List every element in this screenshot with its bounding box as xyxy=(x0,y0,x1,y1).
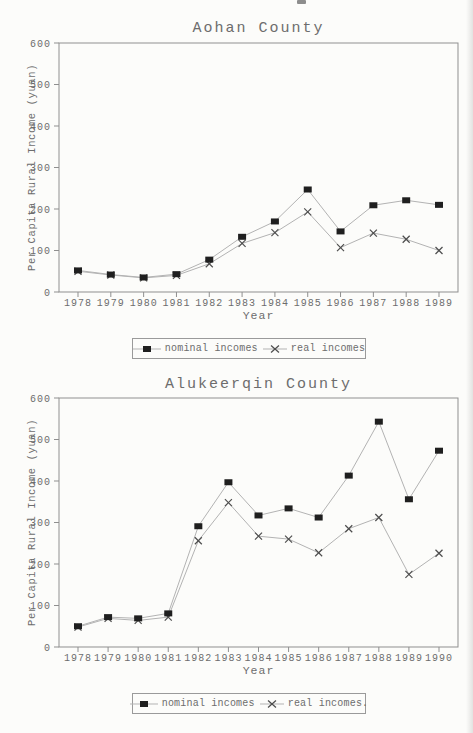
nominal-marker xyxy=(205,257,213,263)
legend-label-nominal: nominal incomes xyxy=(162,698,255,709)
legend-box: nominal incomes real incomes. xyxy=(132,693,366,714)
square-marker-icon xyxy=(130,699,158,709)
x-tick-label: 1989 xyxy=(395,653,423,664)
y-tick-label: 200 xyxy=(30,205,51,216)
x-tick-label: 1978 xyxy=(64,653,92,664)
nominal-marker xyxy=(74,267,82,273)
legend-label-nominal: nominal incomes xyxy=(165,343,258,354)
x-tick-label: 1983 xyxy=(228,298,256,309)
y-tick-label: 200 xyxy=(30,560,51,571)
legend-item-real: real incomes. xyxy=(260,698,369,709)
x-tick-label: 1982 xyxy=(184,653,212,664)
legend-label-real: real incomes xyxy=(291,343,365,354)
nominal-marker xyxy=(107,272,115,278)
nominal-marker xyxy=(402,197,410,203)
nominal-marker xyxy=(224,479,232,485)
y-tick-label: 300 xyxy=(30,518,51,529)
nominal-marker xyxy=(285,505,293,511)
y-tick-label: 0 xyxy=(44,643,51,654)
x-tick-label: 1981 xyxy=(162,298,190,309)
alukeerqin-plot-area: 0100200300400500600197819791980198119821… xyxy=(0,365,473,733)
x-tick-label: 1980 xyxy=(130,298,158,309)
y-tick-label: 400 xyxy=(30,122,51,133)
x-marker-icon xyxy=(260,699,284,709)
nominal-marker xyxy=(315,515,323,521)
x-tick-label: 1984 xyxy=(244,653,272,664)
x-tick-label: 1980 xyxy=(124,653,152,664)
nominal-marker xyxy=(345,473,353,479)
figure-page: Aohan County Per Capita Rural Income (yu… xyxy=(0,0,473,733)
plot-frame xyxy=(59,43,458,292)
plot-0: 0100200300400500600197819791980198119821… xyxy=(30,39,458,310)
legend-label-real: real incomes. xyxy=(288,698,369,709)
x-tick-label: 1978 xyxy=(64,298,92,309)
nominal-marker xyxy=(238,234,246,240)
x-tick-label: 1983 xyxy=(214,653,242,664)
x-tick-label: 1987 xyxy=(359,298,387,309)
x-tick-label: 1984 xyxy=(261,298,289,309)
y-tick-label: 0 xyxy=(44,288,51,299)
nominal-marker xyxy=(304,186,312,192)
x-axis-label: Year xyxy=(59,309,458,322)
x-tick-label: 1979 xyxy=(97,298,125,309)
x-tick-label: 1986 xyxy=(305,653,333,664)
x-tick-label: 1987 xyxy=(335,653,363,664)
legend-item-nominal: nominal incomes xyxy=(130,698,255,709)
nominal-marker xyxy=(337,228,345,234)
nominal-marker xyxy=(172,271,180,277)
plot-1: 0100200300400500600197819791980198119821… xyxy=(30,394,458,665)
nominal-marker xyxy=(435,448,443,454)
x-marker-icon xyxy=(263,344,287,354)
y-tick-label: 600 xyxy=(30,39,51,50)
nominal-marker xyxy=(134,615,142,621)
nominal-marker xyxy=(375,419,383,425)
nominal-marker xyxy=(405,496,413,502)
y-tick-label: 500 xyxy=(30,80,51,91)
nominal-incomes-line xyxy=(78,422,439,627)
nominal-marker xyxy=(74,623,82,629)
x-tick-label: 1989 xyxy=(425,298,453,309)
nominal-marker xyxy=(140,274,148,280)
x-axis-label: Year xyxy=(59,664,458,677)
y-tick-label: 600 xyxy=(30,394,51,405)
nominal-marker xyxy=(369,202,377,208)
x-tick-label: 1981 xyxy=(154,653,182,664)
y-tick-label: 400 xyxy=(30,477,51,488)
nominal-marker xyxy=(194,523,202,529)
real-incomes-line xyxy=(78,503,439,627)
y-tick-label: 300 xyxy=(30,163,51,174)
square-marker-icon xyxy=(133,344,161,354)
x-tick-label: 1985 xyxy=(294,298,322,309)
y-tick-label: 100 xyxy=(30,246,51,257)
nominal-marker xyxy=(164,610,172,616)
nominal-marker xyxy=(104,614,112,620)
legend-box: nominal incomes real incomes xyxy=(132,338,366,359)
x-tick-label: 1979 xyxy=(94,653,122,664)
nominal-marker xyxy=(271,218,279,224)
y-tick-label: 500 xyxy=(30,435,51,446)
x-tick-label: 1988 xyxy=(392,298,420,309)
real-incomes-line xyxy=(78,212,439,278)
x-tick-label: 1988 xyxy=(365,653,393,664)
y-tick-label: 100 xyxy=(30,601,51,612)
nominal-marker xyxy=(435,202,443,208)
nominal-incomes-line xyxy=(78,189,439,277)
x-tick-label: 1982 xyxy=(195,298,223,309)
legend-item-nominal: nominal incomes xyxy=(133,343,258,354)
nominal-marker xyxy=(255,512,263,518)
plot-frame xyxy=(59,398,458,647)
legend-item-real: real incomes xyxy=(263,343,365,354)
x-tick-label: 1990 xyxy=(425,653,453,664)
x-tick-label: 1986 xyxy=(327,298,355,309)
x-tick-label: 1985 xyxy=(275,653,303,664)
